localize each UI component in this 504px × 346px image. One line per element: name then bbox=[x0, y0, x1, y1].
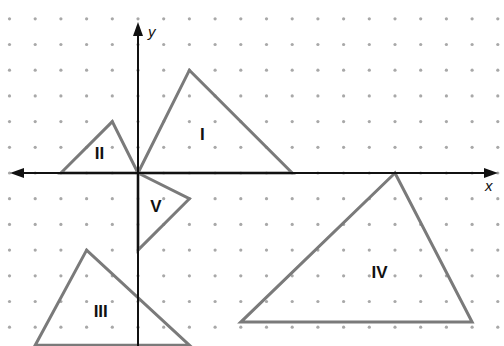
grid-dot bbox=[393, 249, 396, 252]
grid-dot bbox=[8, 223, 11, 226]
grid-dot bbox=[265, 120, 268, 123]
grid-dot bbox=[496, 249, 499, 252]
grid-dot bbox=[162, 17, 165, 20]
grid-dot bbox=[316, 300, 319, 303]
grid-dot bbox=[111, 300, 114, 303]
grid-dot bbox=[265, 223, 268, 226]
grid-dot bbox=[59, 249, 62, 252]
grid-dot bbox=[496, 17, 499, 20]
grid-dot bbox=[419, 197, 422, 200]
grid-dot bbox=[85, 274, 88, 277]
grid-dot bbox=[445, 197, 448, 200]
grid-dot bbox=[34, 274, 37, 277]
grid-dot bbox=[265, 274, 268, 277]
triangle-iv bbox=[241, 173, 472, 322]
grid-dot bbox=[496, 146, 499, 149]
grid-dot bbox=[85, 197, 88, 200]
grid-dot bbox=[188, 17, 191, 20]
grid-dot bbox=[239, 300, 242, 303]
grid-dot bbox=[471, 223, 474, 226]
grid-dot bbox=[419, 274, 422, 277]
grid-dot bbox=[291, 146, 294, 149]
grid-dot bbox=[8, 94, 11, 97]
grid-dot bbox=[8, 120, 11, 123]
grid-dot bbox=[162, 69, 165, 72]
grid-dot bbox=[214, 69, 217, 72]
grid-dot bbox=[291, 300, 294, 303]
grid-dot bbox=[471, 43, 474, 46]
grid-dot bbox=[419, 146, 422, 149]
grid-dot bbox=[111, 249, 114, 252]
grid-dot bbox=[342, 300, 345, 303]
grid-dot bbox=[471, 274, 474, 277]
grid-dot bbox=[368, 274, 371, 277]
grid-dot bbox=[496, 197, 499, 200]
grid-dot bbox=[471, 94, 474, 97]
grid-dot bbox=[85, 120, 88, 123]
grid-dot bbox=[445, 146, 448, 149]
grid-dot bbox=[496, 120, 499, 123]
grid-dot bbox=[34, 249, 37, 252]
grid-dot bbox=[85, 223, 88, 226]
grid-dot bbox=[162, 326, 165, 329]
grid-dot bbox=[34, 43, 37, 46]
grid-dot bbox=[368, 69, 371, 72]
grid-dot bbox=[471, 17, 474, 20]
grid-dot bbox=[342, 94, 345, 97]
grid-dot bbox=[8, 326, 11, 329]
grid-dot bbox=[393, 300, 396, 303]
grid-dot bbox=[291, 17, 294, 20]
grid-dot bbox=[162, 300, 165, 303]
grid-dot bbox=[188, 223, 191, 226]
grid-dot bbox=[111, 69, 114, 72]
grid-dot bbox=[291, 120, 294, 123]
grid-dot bbox=[316, 326, 319, 329]
grid-dot bbox=[111, 94, 114, 97]
grid-dot bbox=[393, 274, 396, 277]
grid-dot bbox=[85, 326, 88, 329]
triangle-label-iii: III bbox=[94, 302, 108, 321]
grid-dot bbox=[162, 94, 165, 97]
coordinate-plane: x y IIIIIIIVV bbox=[0, 0, 504, 346]
triangle-label-v: V bbox=[150, 197, 162, 216]
grid-dot bbox=[59, 197, 62, 200]
grid-dot bbox=[393, 43, 396, 46]
grid-dot bbox=[368, 223, 371, 226]
grid-dot bbox=[265, 249, 268, 252]
grid-dot bbox=[291, 326, 294, 329]
grid-dot bbox=[111, 326, 114, 329]
grid-dot bbox=[188, 146, 191, 149]
grid-dot bbox=[214, 146, 217, 149]
grid-dot bbox=[188, 274, 191, 277]
grid-dot bbox=[34, 94, 37, 97]
x-axis-left-arrow-icon bbox=[10, 168, 24, 178]
grid-dot bbox=[34, 120, 37, 123]
grid-dot bbox=[419, 300, 422, 303]
grid-dot bbox=[316, 146, 319, 149]
triangle-label-i: I bbox=[200, 125, 205, 144]
grid-dot bbox=[34, 17, 37, 20]
grid-dot bbox=[111, 223, 114, 226]
grid-dot bbox=[214, 274, 217, 277]
grid-dot bbox=[291, 94, 294, 97]
grid-dot bbox=[445, 120, 448, 123]
grid-dot bbox=[214, 249, 217, 252]
grid-dot bbox=[59, 43, 62, 46]
grid-dot bbox=[214, 300, 217, 303]
grid-dot bbox=[342, 69, 345, 72]
grid-dot bbox=[393, 69, 396, 72]
grid-dot bbox=[342, 17, 345, 20]
grid-dot bbox=[393, 326, 396, 329]
grid-dot bbox=[8, 197, 11, 200]
grid-dot bbox=[239, 274, 242, 277]
grid-dot bbox=[34, 326, 37, 329]
grid-dot bbox=[59, 326, 62, 329]
grid-dot bbox=[393, 223, 396, 226]
grid-dot bbox=[214, 223, 217, 226]
grid-dot bbox=[34, 300, 37, 303]
grid-dot bbox=[59, 146, 62, 149]
grid-dot bbox=[188, 43, 191, 46]
grid-dot bbox=[291, 223, 294, 226]
grid-dot bbox=[496, 94, 499, 97]
grid-dot bbox=[111, 197, 114, 200]
